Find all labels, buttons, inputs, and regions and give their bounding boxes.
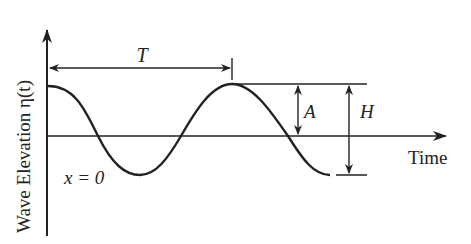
y-axis-label: Wave Elevation η(t) xyxy=(13,80,35,233)
wave-diagram: T A H Time x = 0 Wave Elevation η(t) xyxy=(0,0,471,244)
time-axis-label: Time xyxy=(408,147,447,168)
amplitude-label: A xyxy=(302,101,316,122)
position-label: x = 0 xyxy=(63,167,105,188)
height-label: H xyxy=(359,101,375,122)
period-label: T xyxy=(136,44,149,66)
wave-curve xyxy=(48,84,330,175)
